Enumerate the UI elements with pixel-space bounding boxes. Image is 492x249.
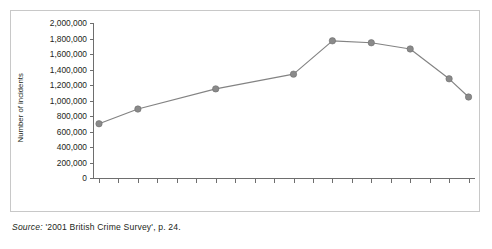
data-point-1997[interactable] — [407, 46, 413, 52]
data-point-1991[interactable] — [290, 71, 296, 77]
y-tick-label: 2,000,000 — [50, 18, 88, 28]
source-citation: '2001 British Crime Survey', p. 24. — [43, 222, 181, 232]
y-tick-label: 800,000 — [57, 111, 88, 121]
data-point-1983[interactable] — [135, 106, 141, 112]
data-point-2000[interactable] — [465, 94, 471, 100]
data-point-1995[interactable] — [368, 40, 374, 46]
series-line-incidents — [99, 41, 469, 124]
y-tick-label: 1,800,000 — [50, 34, 88, 44]
y-tick-label: 1,000,000 — [50, 96, 88, 106]
source-label: Source: — [12, 222, 43, 232]
data-point-1993[interactable] — [329, 38, 335, 44]
data-point-1987[interactable] — [213, 86, 219, 92]
chart-plot-area: Number of incidents0200,000400,000600,00… — [10, 10, 480, 212]
data-point-1981[interactable] — [96, 121, 102, 127]
y-tick-label: 0 — [82, 173, 87, 183]
data-point-1999[interactable] — [446, 76, 452, 82]
line-chart-svg: Number of incidents0200,000400,000600,00… — [11, 11, 481, 213]
y-tick-label: 1,600,000 — [50, 49, 88, 59]
y-tick-label: 600,000 — [57, 127, 88, 137]
y-tick-label: 1,200,000 — [50, 80, 88, 90]
y-tick-label: 400,000 — [57, 142, 88, 152]
source-caption: Source: '2001 British Crime Survey', p. … — [12, 222, 181, 232]
figure-container: Number of incidents0200,000400,000600,00… — [0, 0, 492, 249]
y-axis-title: Number of incidents — [16, 73, 25, 142]
y-tick-label: 1,400,000 — [50, 65, 88, 75]
y-tick-label: 200,000 — [57, 158, 88, 168]
